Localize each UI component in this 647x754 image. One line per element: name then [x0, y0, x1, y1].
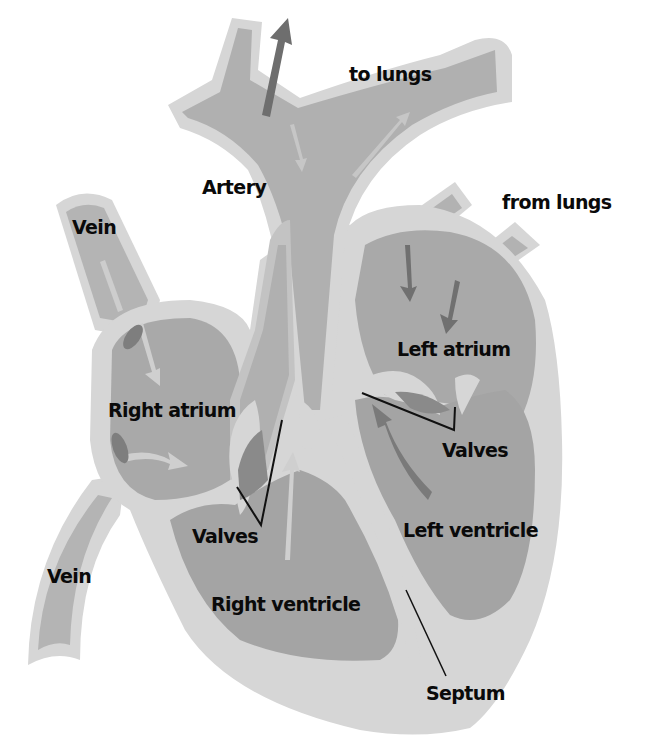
label-septum: Septum — [426, 684, 505, 703]
label-right-atrium: Right atrium — [108, 401, 236, 420]
heart-diagram — [0, 0, 647, 754]
label-valves-right: Valves — [192, 527, 258, 546]
label-vein-bottom: Vein — [47, 567, 91, 586]
label-left-ventricle: Left ventricle — [403, 521, 538, 540]
label-right-ventricle: Right ventricle — [211, 595, 360, 614]
label-to-lungs: to lungs — [349, 65, 431, 84]
label-left-atrium: Left atrium — [397, 340, 510, 359]
label-vein-top: Vein — [72, 218, 116, 237]
label-artery: Artery — [202, 178, 266, 197]
label-valves-left: Valves — [442, 441, 508, 460]
label-from-lungs: from lungs — [502, 193, 612, 212]
